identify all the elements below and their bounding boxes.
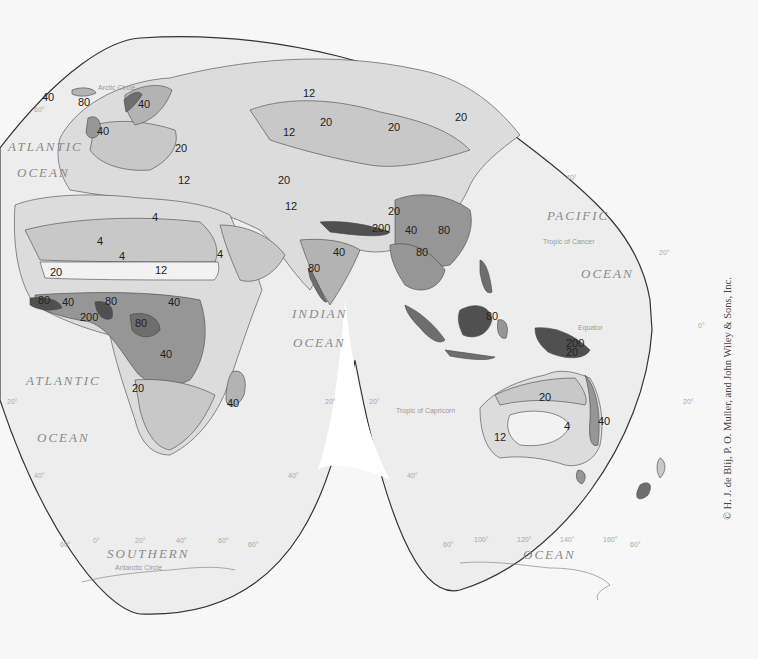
- isohyet-label: 40: [598, 415, 610, 427]
- deg-s20-mid-right: 20°: [369, 398, 380, 405]
- isohyet-label: 20: [278, 174, 290, 186]
- isohyet-label: 80: [486, 310, 498, 322]
- label-southern: SOUTHERN: [107, 546, 189, 561]
- isohyet-label: 12: [178, 174, 190, 186]
- label-ocean-southern: OCEAN: [523, 547, 576, 562]
- deg-n40: 40°: [566, 174, 577, 181]
- label-ocean-pacific: OCEAN: [581, 266, 634, 281]
- isohyet-label: 80: [308, 262, 320, 274]
- isohyet-label: 40: [333, 246, 345, 258]
- isohyet-label: 80: [438, 224, 450, 236]
- isohyet-label: 80: [416, 246, 428, 258]
- isohyet-label: 200: [372, 222, 390, 234]
- isohyet-label: 20: [320, 116, 332, 128]
- deg-s60-d: 60°: [630, 541, 641, 548]
- label-antarctic-circle: Antarctic Circle: [115, 564, 162, 571]
- isohyet-label: 4: [217, 248, 223, 260]
- isohyet-label: 40: [62, 296, 74, 308]
- sahel-12: [40, 262, 219, 280]
- isohyet-label: 4: [152, 211, 158, 223]
- isohyet-label: 20: [566, 346, 578, 358]
- isohyet-label: 40: [405, 224, 417, 236]
- label-ocean-south-atlantic: OCEAN: [37, 430, 90, 445]
- deg-lon-60: 60°: [218, 537, 229, 544]
- isohyet-label: 80: [78, 96, 90, 108]
- label-arctic-circle: Arctic Circle: [98, 84, 135, 91]
- label-atlantic-south: ATLANTIC: [25, 373, 101, 388]
- deg-lon-100: 100°: [474, 536, 489, 543]
- deg-s40-west: 40°: [34, 472, 45, 479]
- deg-lon-140: 140°: [560, 536, 575, 543]
- label-ocean-indian: OCEAN: [293, 335, 346, 350]
- label-pacific: PACIFIC: [546, 208, 609, 223]
- deg-lon-40: 40°: [176, 537, 187, 544]
- deg-s20-mid-left: 20°: [325, 398, 336, 405]
- isohyet-label: 40: [168, 296, 180, 308]
- isohyet-label: 20: [50, 266, 62, 278]
- isohyet-label: 20: [455, 111, 467, 123]
- copyright-credit: © H. J. de Blij, P. O. Muller, and John …: [722, 277, 733, 520]
- deg-lon-0: 0°: [93, 537, 100, 544]
- isohyet-label: 12: [303, 87, 315, 99]
- isohyet-label: 40: [160, 348, 172, 360]
- deg-s40-mid-right: 40°: [407, 472, 418, 479]
- isohyet-label: 80: [38, 294, 50, 306]
- isohyet-label: 20: [388, 121, 400, 133]
- deg-lon-20: 20°: [135, 537, 146, 544]
- isohyet-label: 4: [119, 250, 125, 262]
- label-ocean-north-atlantic: OCEAN: [17, 165, 70, 180]
- label-equator: Equator: [578, 324, 603, 332]
- deg-s40-mid-left: 40°: [288, 472, 299, 479]
- deg-n60: 60°: [34, 106, 45, 113]
- isohyet-label: 4: [564, 420, 570, 432]
- isohyet-label: 40: [97, 125, 109, 137]
- label-atlantic-north: ATLANTIC: [7, 139, 83, 154]
- isohyet-label: 80: [105, 295, 117, 307]
- new-zealand-north: [657, 458, 665, 478]
- isohyet-label: 12: [494, 431, 506, 443]
- deg-s20-west: 20°: [7, 398, 18, 405]
- isohyet-label: 12: [155, 264, 167, 276]
- isohyet-label: 40: [227, 397, 239, 409]
- isohyet-label: 20: [539, 391, 551, 403]
- label-tropic-of-cancer: Tropic of Cancer: [543, 238, 595, 246]
- deg-s60-c: 60°: [443, 541, 454, 548]
- label-tropic-of-capricorn: Tropic of Capricorn: [396, 407, 455, 415]
- isohyet-label: 20: [175, 142, 187, 154]
- isohyet-label: 20: [388, 205, 400, 217]
- isohyet-label: 12: [283, 126, 295, 138]
- isohyet-label: 200: [80, 311, 98, 323]
- deg-s20-east: 20°: [683, 398, 694, 405]
- deg-equator: 0°: [698, 322, 705, 329]
- deg-n20: 20°: [659, 249, 670, 256]
- isohyet-label: 4: [97, 235, 103, 247]
- precipitation-map: ATLANTIC OCEAN ATLANTIC OCEAN INDIAN OCE…: [0, 0, 758, 659]
- isohyet-label: 40: [138, 98, 150, 110]
- deg-lon-120: 120°: [517, 536, 532, 543]
- deg-s60-a: 60°: [60, 541, 71, 548]
- deg-lon-160: 160°: [603, 536, 618, 543]
- label-indian: INDIAN: [291, 306, 347, 321]
- deg-s60-b: 60°: [248, 541, 259, 548]
- new-zealand-south: [637, 483, 651, 499]
- isohyet-label: 12: [285, 200, 297, 212]
- isohyet-label: 40: [42, 91, 54, 103]
- isohyet-label: 80: [135, 317, 147, 329]
- isohyet-label: 20: [132, 382, 144, 394]
